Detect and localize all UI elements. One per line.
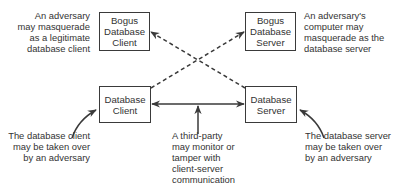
database-server-box: Database Server — [245, 86, 297, 123]
database-client-box: Database Client — [99, 86, 151, 123]
database-client-label: Database Client — [104, 94, 145, 116]
bogus-client-label: Bogus Database Client — [104, 15, 145, 48]
database-client-note: The database client may be taken over by… — [8, 131, 90, 164]
bogus-server-box: Bogus Database Server — [245, 12, 296, 51]
bogus-server-note: An adversary's computer may masquerade a… — [304, 11, 384, 55]
bogus-client-note: An adversary may masquerade as a legitim… — [18, 11, 90, 55]
database-server-label: Database Server — [250, 94, 291, 116]
bogus-client-box: Bogus Database Client — [99, 12, 150, 51]
bogus-server-label: Bogus Database Server — [250, 15, 291, 48]
third-party-note: A third-party may monitor or tamper with… — [172, 131, 235, 186]
database-server-note: The database server may be taken over by… — [305, 131, 391, 164]
